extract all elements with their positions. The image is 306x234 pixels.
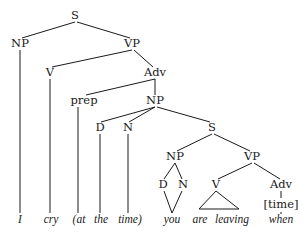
tree-branch <box>172 191 182 213</box>
terminal-w-leaving: leaving <box>215 214 249 226</box>
terminal-w-cry: cry <box>44 214 59 226</box>
tree-node-s2: S <box>208 122 216 134</box>
tree-branches <box>0 0 306 234</box>
terminal-w-the: the <box>94 214 108 226</box>
tree-node-adv1: Adv <box>144 67 166 79</box>
tree-branch <box>77 22 130 38</box>
terminal-w-when: when <box>269 214 293 226</box>
tree-node-s1: S <box>71 10 79 22</box>
tree-node-vp1: VP <box>124 38 140 50</box>
tree-branch <box>218 163 252 179</box>
tree-node-adv2: Adv <box>270 179 292 191</box>
terminal-w-i: I <box>18 214 22 226</box>
tree-node-time-feature: [time] <box>264 199 299 211</box>
terminal-w-at: (at <box>73 214 86 226</box>
tree-node-d1: D <box>95 122 104 134</box>
tree-node-vp2: VP <box>244 151 260 163</box>
tree-branch <box>52 50 132 67</box>
tree-branch <box>164 191 172 213</box>
terminal-w-are: are <box>193 214 208 226</box>
tree-node-prep1: prep <box>70 95 97 107</box>
tree-node-d2: D <box>158 179 167 191</box>
terminal-w-time: time) <box>118 214 142 226</box>
tree-node-v1: V <box>46 67 54 79</box>
syntax-tree-diagram: SNPVPVAdvprepNPDNSNPVPDNVAdv[time] Icry(… <box>0 0 306 234</box>
tree-node-n1: N <box>123 122 133 134</box>
constituent-triangle <box>199 191 239 209</box>
tree-node-np3: NP <box>166 151 184 163</box>
tree-node-np1: NP <box>11 38 29 50</box>
terminal-w-you: you <box>164 214 181 226</box>
tree-branch <box>157 107 210 122</box>
tree-node-np2: NP <box>146 95 164 107</box>
tree-node-n2: N <box>178 179 188 191</box>
tree-branch <box>22 22 75 38</box>
tree-node-v2: V <box>212 179 220 191</box>
